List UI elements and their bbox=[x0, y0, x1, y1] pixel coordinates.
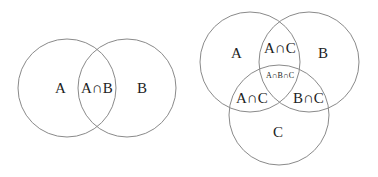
three-set-venn bbox=[200, 12, 359, 165]
circle-c bbox=[229, 65, 329, 165]
label-a-intersect-c-top: A∩C bbox=[264, 40, 296, 56]
label-a-intersect-b: A∩B bbox=[81, 80, 113, 96]
label-b-intersect-c: B∩C bbox=[293, 90, 324, 106]
venn-diagrams: A A∩B B A A∩C B A∩B∩C A∩C B∩C C bbox=[0, 0, 378, 177]
label-c: C bbox=[273, 124, 283, 140]
label-a: A bbox=[231, 45, 242, 61]
label-b: B bbox=[318, 45, 328, 61]
label-a-intersect-c-bottom: A∩C bbox=[236, 90, 268, 106]
label-a-b-c: A∩B∩C bbox=[266, 71, 294, 80]
label-b: B bbox=[137, 80, 147, 96]
label-a: A bbox=[55, 80, 66, 96]
